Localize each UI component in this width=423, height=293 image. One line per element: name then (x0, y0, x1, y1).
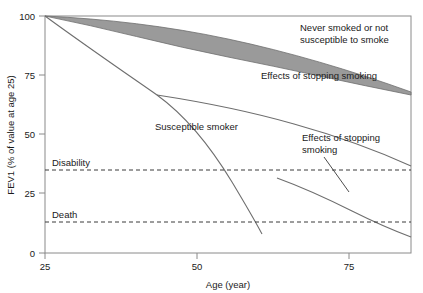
effects-stopping-lower-label-line2: smoking (302, 144, 337, 155)
effects-stopping-lower-label-line1: Effects of stopping (302, 132, 380, 143)
fev1-decline-chart: 100 75 50 25 0 25 50 75 FEV1 (% of value… (0, 0, 423, 293)
ytick-label-50: 50 (24, 129, 35, 140)
never-smoked-label-line1: Never smoked or not (300, 22, 389, 33)
ytick-label-0: 0 (30, 248, 35, 259)
y-axis-title: FEV1 (% of value at age 25) (5, 75, 16, 194)
effects-stopping-upper-label: Effects of stopping smoking (261, 70, 377, 81)
never-smoked-label-line2: susceptible to smoke (300, 34, 389, 45)
susceptible-smoker-label: Susceptible smoker (155, 121, 238, 132)
ytick-label-25: 25 (24, 188, 35, 199)
xtick-label-25: 25 (40, 261, 51, 272)
death-label: Death (52, 209, 77, 220)
chart-canvas: 100 75 50 25 0 25 50 75 FEV1 (% of value… (0, 0, 423, 293)
ytick-label-100: 100 (19, 11, 35, 22)
ytick-label-75: 75 (24, 70, 35, 81)
xtick-label-50: 50 (192, 261, 203, 272)
disability-label: Disability (52, 157, 90, 168)
x-axis-title: Age (year) (206, 279, 250, 290)
xtick-label-75: 75 (344, 261, 355, 272)
